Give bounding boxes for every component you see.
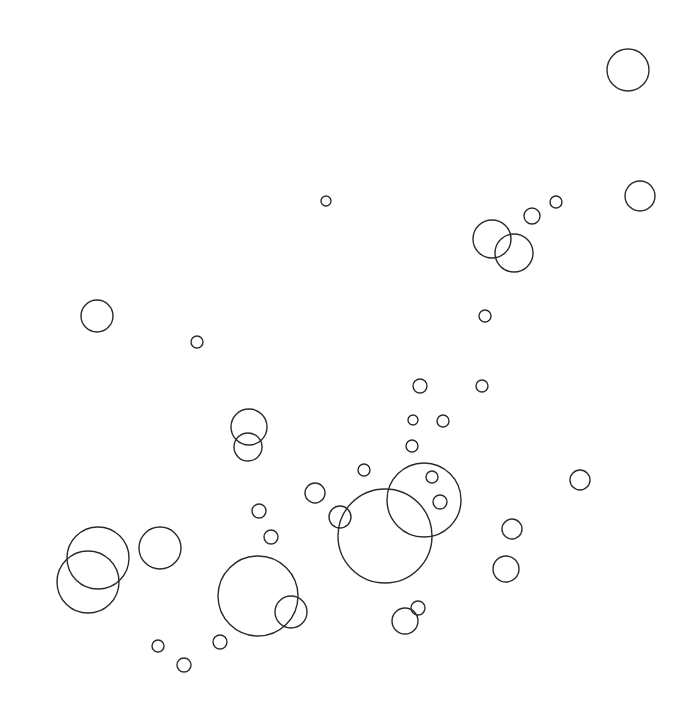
circle-26 [264, 530, 278, 544]
circle-25 [252, 504, 266, 518]
circle-6 [495, 234, 533, 272]
circle-37 [152, 640, 164, 652]
circle-16 [234, 433, 262, 461]
circle-29 [139, 527, 181, 569]
circle-20 [570, 470, 590, 490]
circle-12 [408, 415, 418, 425]
circle-18 [426, 471, 438, 483]
circle-38 [177, 658, 191, 672]
circle-19 [433, 495, 447, 509]
circle-1 [625, 181, 655, 211]
circle-8 [191, 336, 203, 348]
circle-23 [387, 463, 461, 537]
circle-30 [67, 527, 129, 589]
circle-7 [81, 300, 113, 332]
circle-17 [358, 464, 370, 476]
circle-36 [213, 635, 227, 649]
circle-9 [479, 310, 491, 322]
circle-10 [413, 379, 427, 393]
circle-28 [493, 556, 519, 582]
circle-21 [305, 483, 325, 503]
circle-2 [321, 196, 331, 206]
circle-33 [275, 596, 307, 628]
circle-4 [550, 196, 562, 208]
circle-32 [218, 556, 298, 636]
circle-13 [437, 415, 449, 427]
circle-14 [406, 440, 418, 452]
bubble-canvas [0, 0, 693, 720]
circle-34 [392, 608, 418, 634]
circle-0 [607, 49, 649, 91]
circle-11 [476, 380, 488, 392]
circle-3 [524, 208, 540, 224]
circle-5 [473, 220, 511, 258]
circle-35 [411, 601, 425, 615]
circles-drawing [0, 0, 693, 720]
circle-31 [57, 551, 119, 613]
circle-27 [502, 519, 522, 539]
